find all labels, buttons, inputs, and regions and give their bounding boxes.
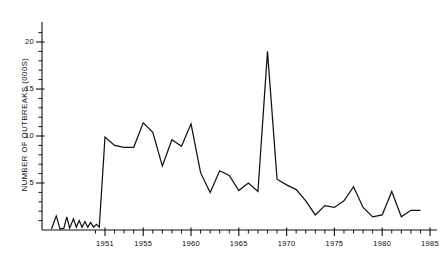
- x-tick-label: 1975: [314, 239, 354, 248]
- x-tick-label: 1965: [219, 239, 259, 248]
- x-tick-label: 1970: [267, 239, 307, 248]
- y-tick-label: 5: [14, 178, 34, 187]
- x-tick-label: 1960: [171, 239, 211, 248]
- chart-container: NUMBER OF OUTBREAKS (000S) 5101520 19511…: [0, 0, 446, 275]
- chart-plot-area: [0, 0, 446, 275]
- x-tick-label: 1951: [85, 239, 125, 248]
- data-series-line: [51, 51, 420, 229]
- y-tick-label: 20: [14, 37, 34, 46]
- x-tick-label: 1955: [123, 239, 163, 248]
- y-tick-label: 10: [14, 131, 34, 140]
- y-tick-label: 15: [14, 84, 34, 93]
- x-tick-label: 1985: [410, 239, 446, 248]
- x-tick-label: 1980: [362, 239, 402, 248]
